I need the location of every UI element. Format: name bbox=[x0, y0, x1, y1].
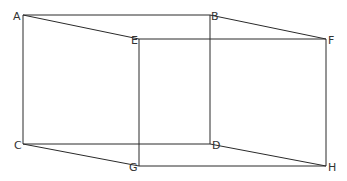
vertex-label-f: F bbox=[328, 34, 334, 47]
edge-dh bbox=[210, 144, 326, 166]
edge-cg bbox=[23, 144, 139, 166]
vertex-label-b: B bbox=[211, 10, 219, 23]
edge-ae bbox=[23, 15, 139, 39]
vertex-label-g: G bbox=[129, 161, 138, 174]
vertex-label-d: D bbox=[212, 139, 220, 152]
edge-bf bbox=[210, 15, 326, 39]
vertex-label-c: C bbox=[14, 139, 22, 152]
vertex-label-e: E bbox=[131, 34, 138, 47]
cuboid-diagram: A B E F C D G H bbox=[0, 0, 347, 181]
vertex-label-h: H bbox=[328, 161, 336, 174]
vertex-label-a: A bbox=[13, 10, 21, 23]
